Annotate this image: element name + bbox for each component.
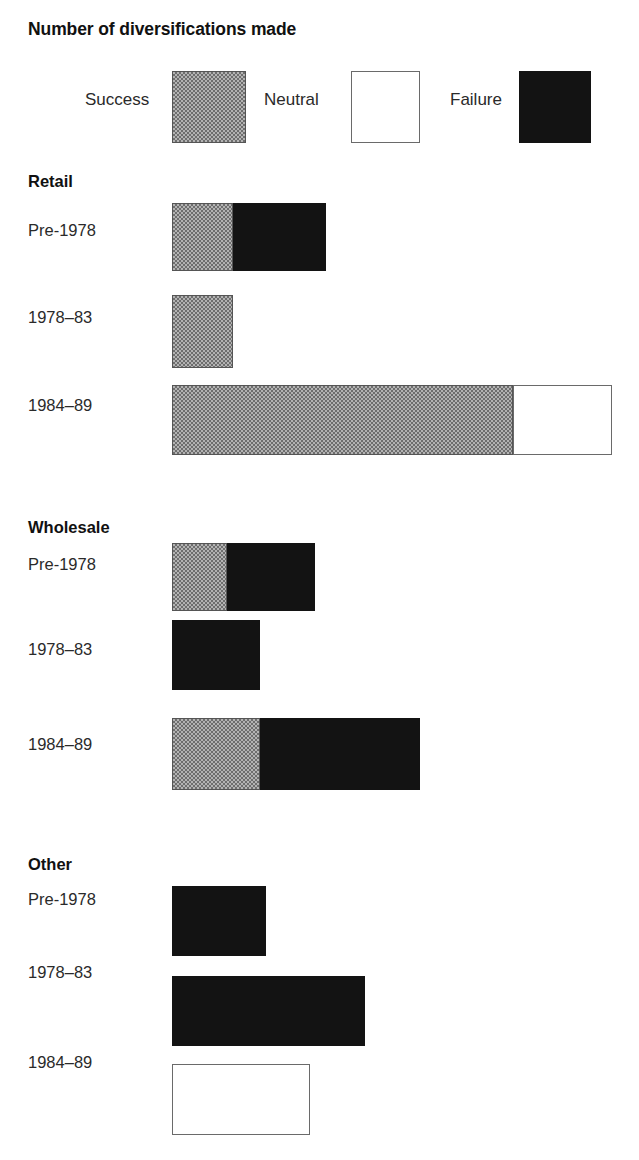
group-heading-retail: Retail — [28, 172, 73, 191]
success-segment — [172, 203, 233, 271]
row-label: Pre-1978 — [28, 555, 96, 574]
white-outline-swatch — [351, 71, 420, 143]
bar-wholesale-Pre1978 — [172, 543, 315, 611]
failure-segment — [172, 976, 365, 1046]
row-label: 1978–83 — [28, 308, 92, 327]
row-label: 1984–89 — [28, 1053, 92, 1072]
diversifications-chart: Number of diversifications made Success … — [0, 0, 639, 1160]
success-segment — [172, 718, 260, 790]
failure-segment — [227, 543, 315, 611]
success-segment — [172, 543, 227, 611]
row-label: 1984–89 — [28, 396, 92, 415]
failure-segment — [172, 886, 266, 956]
group-heading-other: Other — [28, 855, 72, 874]
legend-label-failure: Failure — [450, 90, 502, 110]
row-label: 1978–83 — [28, 963, 92, 982]
row-label: Pre-1978 — [28, 890, 96, 909]
legend-label-success: Success — [85, 90, 149, 110]
bar-wholesale-197883 — [172, 620, 260, 690]
black-swatch — [519, 71, 591, 143]
chart-title: Number of diversifications made — [28, 19, 296, 40]
group-heading-wholesale: Wholesale — [28, 518, 110, 537]
gray-checkered-swatch — [172, 71, 246, 143]
bar-other-198489 — [172, 1064, 310, 1135]
success-segment — [172, 385, 513, 455]
legend-label-neutral: Neutral — [264, 90, 319, 110]
row-label: 1978–83 — [28, 640, 92, 659]
row-label: 1984–89 — [28, 735, 92, 754]
bar-wholesale-198489 — [172, 718, 420, 790]
neutral-segment — [172, 1064, 310, 1135]
failure-segment — [172, 620, 260, 690]
failure-segment — [233, 203, 327, 271]
row-label: Pre-1978 — [28, 221, 96, 240]
bar-other-Pre1978 — [172, 886, 266, 956]
failure-segment — [260, 718, 420, 790]
success-segment — [172, 295, 233, 368]
chart-legend: Success Neutral Failure — [0, 68, 639, 146]
bar-retail-198489 — [172, 385, 612, 455]
bar-retail-197883 — [172, 295, 233, 368]
bar-retail-Pre1978 — [172, 203, 326, 271]
neutral-segment — [513, 385, 612, 455]
bar-other-197883 — [172, 976, 365, 1046]
